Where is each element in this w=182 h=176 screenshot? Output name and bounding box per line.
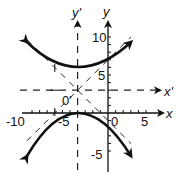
y-tick-10: 10 xyxy=(92,30,106,45)
y-prime-label: y' xyxy=(71,5,82,20)
y-tick-neg5: -5 xyxy=(91,147,103,162)
y-label: y xyxy=(102,4,111,19)
x-tick-5: 5 xyxy=(141,114,148,129)
x-prime-label: x' xyxy=(163,84,174,99)
origin-prime-label: 0' xyxy=(62,93,72,108)
x-tick-neg10: -10 xyxy=(6,114,25,129)
x-tick-0: 0 xyxy=(111,114,118,129)
y-tick-5: 5 xyxy=(98,68,105,83)
x-label: x xyxy=(165,106,173,121)
rectangle-marks xyxy=(50,64,59,116)
hyperbola-figure: y' y x x' 0' 10 5 -5 -10 -5 0 5 xyxy=(0,0,182,176)
hyperbola-upper-branch xyxy=(27,42,131,67)
x-tick-neg5: -5 xyxy=(58,114,70,129)
